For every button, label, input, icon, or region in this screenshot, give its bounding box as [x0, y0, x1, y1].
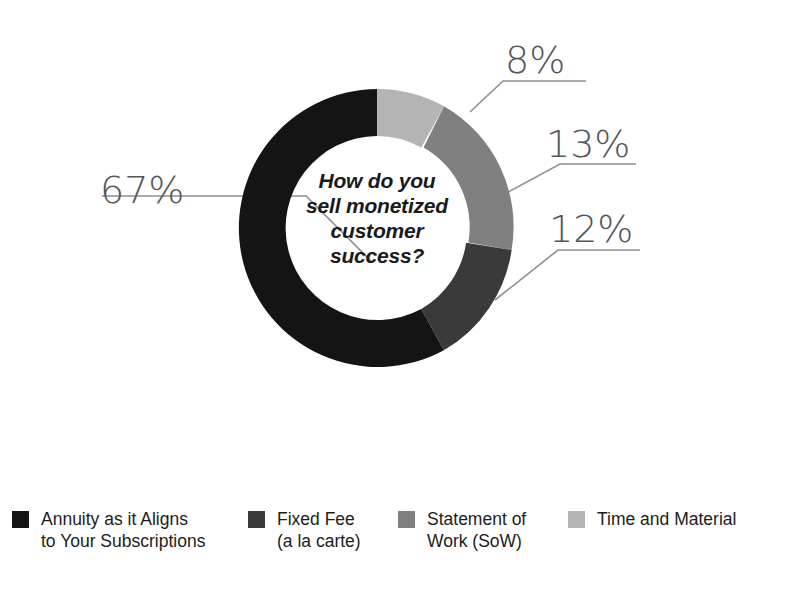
legend-item-sow[interactable]: Statement of Work (SoW) [398, 508, 526, 552]
leader-line-fixed-fee [495, 250, 640, 300]
legend-swatch-icon [398, 511, 415, 528]
callout-percent-sow: 13% [546, 124, 630, 164]
legend-swatch-icon [12, 511, 29, 528]
legend-label: Statement of Work (SoW) [427, 508, 526, 552]
callout-percent-fixed-fee: 12% [549, 209, 633, 249]
callout-percent-time-material: 8% [505, 40, 565, 80]
center-question-label: How do you sell monetized customer succe… [277, 168, 477, 268]
callout-percent-annuity: 67% [100, 170, 184, 210]
leader-line-time-material [470, 81, 586, 112]
chart-legend: Annuity as it Aligns to Your Subscriptio… [0, 500, 785, 570]
legend-item-annuity[interactable]: Annuity as it Aligns to Your Subscriptio… [12, 508, 205, 552]
leader-line-sow [497, 164, 636, 198]
legend-label: Annuity as it Aligns to Your Subscriptio… [41, 508, 205, 552]
legend-swatch-icon [248, 511, 265, 528]
legend-item-fixed-fee[interactable]: Fixed Fee (a la carte) [248, 508, 361, 552]
legend-swatch-icon [568, 511, 585, 528]
legend-item-time-material[interactable]: Time and Material [568, 508, 736, 530]
legend-label: Fixed Fee (a la carte) [277, 508, 361, 552]
legend-label: Time and Material [597, 508, 736, 530]
donut-chart: How do you sell monetized customer succe… [0, 0, 785, 480]
